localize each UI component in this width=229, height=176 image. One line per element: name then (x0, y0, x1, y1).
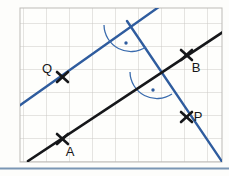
right-angle-dot-lower (151, 88, 154, 91)
geometry-canvas: Q B P A (0, 0, 229, 176)
point-label-Q: Q (42, 61, 52, 76)
geometry-figure: Q B P A (0, 0, 229, 176)
right-angle-dot-upper (124, 41, 127, 44)
point-label-A: A (66, 144, 75, 159)
point-label-P: P (194, 109, 203, 124)
point-label-B: B (192, 60, 201, 75)
